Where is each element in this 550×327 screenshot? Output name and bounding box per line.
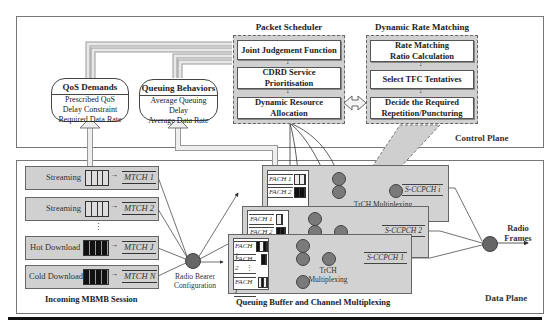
arrow-right-icon: → (110, 269, 118, 278)
arrow-right-icon: → (110, 201, 118, 210)
fach-label: FACH 1 (268, 174, 293, 185)
session-row: Cold Download → MTCH N (25, 265, 159, 289)
trch-mux-node (322, 252, 336, 266)
mtch-channel: MTCH N (122, 270, 157, 283)
fach-node (332, 172, 346, 186)
fach-buffer-icon (276, 214, 283, 225)
fach-node (332, 185, 346, 199)
rate-matching-ratio-step: Rate Matching Ratio Calculation (370, 40, 474, 62)
dynamic-resource-allocation-step: Dynamic Resource Allocation (237, 97, 341, 119)
radio-bearer-label: Radio Bearer Configuration (170, 272, 220, 290)
session-name: Streaming (46, 172, 81, 182)
radio-bearer-node (185, 253, 201, 269)
mtch-channel: MTCH J (122, 241, 156, 254)
step-text: Joint Judgement Function (241, 45, 336, 56)
session-row: Hot Download → MTCH J (25, 236, 159, 260)
ellipsis: ⋮ (246, 264, 253, 272)
session-name: Streaming (46, 203, 81, 213)
fach-node (296, 252, 310, 266)
arrow-right-icon: → (110, 240, 118, 249)
s-ccpch-output: S-CCPCH i (402, 184, 443, 196)
step-text: Rate Matching (395, 40, 449, 51)
fach-node (296, 239, 310, 253)
step-text: Repetition/Puncturing (381, 108, 462, 119)
arrow-down-icon: ↓ (286, 87, 290, 95)
step-text: Select TFC Tentatives (382, 74, 461, 85)
queuing-buffer-caption: Queuing Buffer and Channel Multiplexing (236, 297, 390, 307)
trch-mux-line: TrCH (303, 266, 353, 275)
s-ccpch-output: S-CCPCH 1 (364, 252, 407, 264)
trch-mux-line: Multiplexing (303, 275, 353, 284)
step-text: CDRD Service (262, 67, 315, 78)
qos-line: Prescribed QoS (52, 95, 128, 105)
fach-label: FACH 1 (249, 214, 274, 225)
qos-line: Required Data Rate (52, 115, 128, 125)
fach-node (308, 212, 322, 226)
mtch-channel: MTCH 2 (122, 202, 156, 215)
fach-buffer-icon (294, 187, 306, 198)
arrow-down-icon: ↓ (286, 58, 290, 66)
joint-judgement-step: Joint Judgement Function (237, 40, 341, 60)
radio-frames-line: Radio (498, 223, 538, 233)
fach-buffer-icon (294, 174, 306, 185)
queue-buffer-icon (85, 170, 109, 186)
radio-bearer-line: Radio Bearer (170, 272, 220, 281)
step-text: Decide the Required (385, 97, 459, 108)
trch-mux-label: TrCH Multiplexing (303, 266, 353, 284)
cdrd-prioritisation-step: CDRD Service Prioritisation (237, 67, 341, 89)
fach-label: FACH 2 (268, 187, 293, 198)
ellipsis: ⋮ (94, 222, 103, 232)
radio-frames-node (482, 236, 498, 252)
mtch-channel: MTCH 1 (122, 171, 156, 184)
decide-repetition-step: Decide the Required Repetition/Puncturin… (370, 97, 474, 119)
queue-buffer-icon (83, 240, 109, 256)
queuing-behaviors-box: Queuing Behaviors Average Queuing Delay … (139, 79, 218, 121)
step-text: Dynamic Resource (255, 97, 323, 108)
packet-scheduler-title: Packet Scheduler (233, 22, 345, 32)
queue-buffer-icon (83, 269, 109, 285)
queuing-behaviors-title: Queuing Behaviors (140, 80, 217, 96)
qos-demands-title: QoS Demands (52, 79, 128, 95)
queuing-line: Average Data Rate (140, 116, 217, 126)
arrow-down-icon: ↓ (419, 87, 423, 95)
fach-buffer-icon (258, 277, 268, 288)
queuing-line: Average Queuing Delay (140, 96, 217, 116)
radio-bearer-line: Configuration (170, 281, 220, 290)
arrow-right-icon: → (110, 170, 118, 179)
trch-mux-node (389, 184, 403, 198)
qos-line: Delay Constraint (52, 105, 128, 115)
session-name: Cold Download (29, 271, 83, 281)
fach-buffer-icon (261, 254, 267, 265)
session-name: Hot Download (30, 242, 80, 252)
dynamic-rate-matching-title: Dynamic Rate Matching (366, 22, 478, 32)
incoming-session-caption: Incoming MBMB Session (45, 294, 138, 304)
step-text: Allocation (270, 108, 307, 119)
radio-frames-line: Frames (498, 233, 538, 243)
arrow-down-icon: ↓ (419, 60, 423, 68)
session-row: Streaming → MTCH 1 (25, 166, 159, 190)
qos-demands-box: QoS Demands Prescribed QoS Delay Constra… (51, 78, 129, 122)
queue-buffer-icon (85, 201, 109, 217)
radio-frames-label: Radio Frames (498, 223, 538, 243)
session-row: Streaming → MTCH 2 (25, 197, 159, 221)
fach-buffer-icon (256, 241, 268, 252)
fach-label: FACH I (234, 277, 256, 297)
